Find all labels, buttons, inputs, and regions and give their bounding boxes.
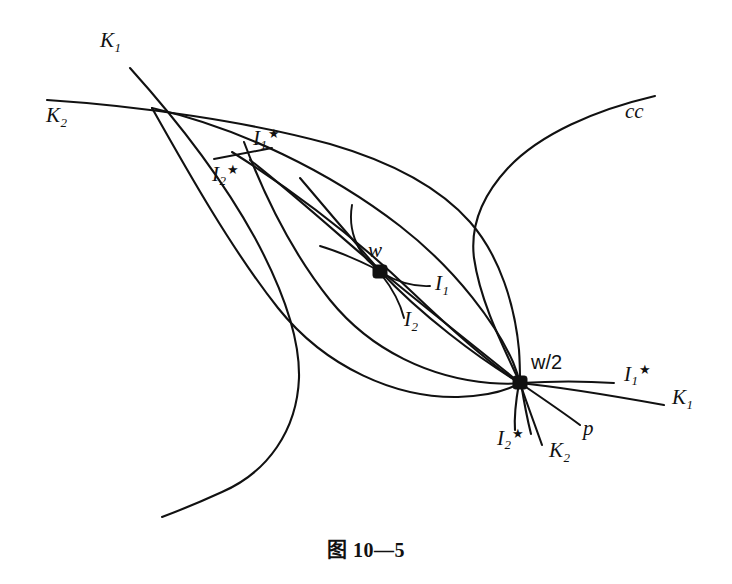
diagram-canvas <box>0 0 732 584</box>
curve-i2-ray <box>300 178 520 383</box>
figure-caption: 图 10—5 <box>0 534 732 563</box>
point-w-dot <box>373 265 387 278</box>
label-k2-bottom: K2 <box>549 440 570 464</box>
ray-w2-i2-star <box>515 383 519 430</box>
label-p-bottom: p <box>583 418 594 439</box>
label-i1-mid: I1 <box>435 273 449 297</box>
figure-root: K1 K2 cc I1★ I2★ w I1 I2 w/2 I1★ K1 I2★ … <box>0 0 732 584</box>
curve-k2-main <box>47 100 520 383</box>
curve-lens-lower <box>152 108 520 397</box>
label-k2-left: K2 <box>46 105 67 129</box>
label-i2-mid: I2 <box>404 309 418 333</box>
label-i2-star-bottom: I2★ <box>497 427 524 451</box>
label-i2-star-top: I2★ <box>212 163 239 187</box>
label-i1-star-right: I1★ <box>624 363 651 387</box>
label-i1-star-top: I1★ <box>253 127 280 151</box>
label-k1-right: K1 <box>672 387 693 411</box>
label-point-w: w <box>368 240 382 261</box>
label-k1-top: K1 <box>100 30 121 54</box>
point-w-half-dot <box>513 376 527 389</box>
label-cc-right: cc <box>625 101 644 122</box>
ray-w2-i1-star <box>520 382 614 384</box>
label-point-w-half: w/2 <box>531 352 562 372</box>
